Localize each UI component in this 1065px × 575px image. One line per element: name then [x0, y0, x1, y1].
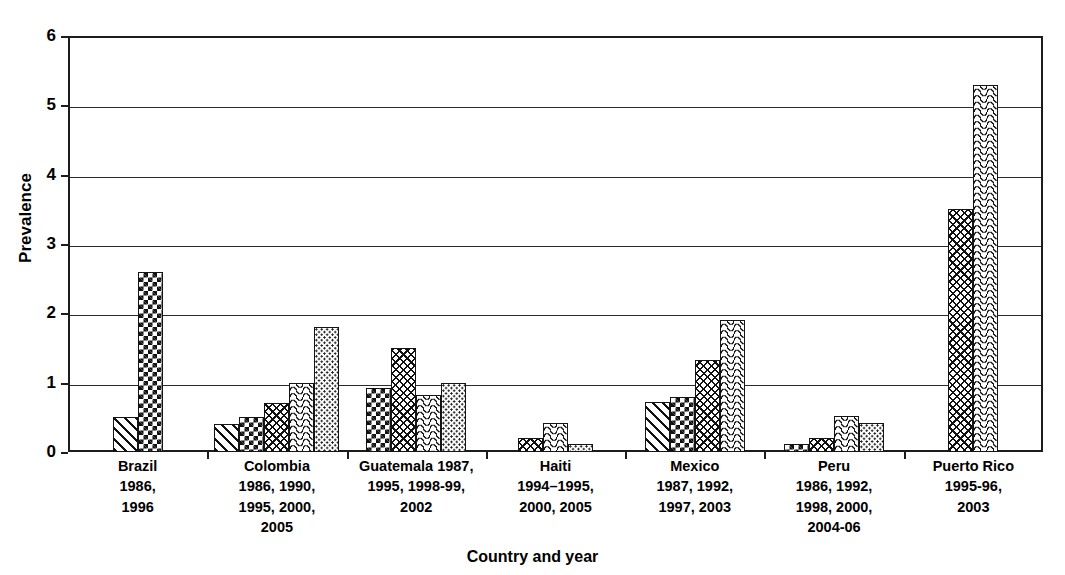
bar: [568, 444, 593, 452]
bar: [695, 360, 720, 452]
bar: [441, 383, 466, 452]
bar: [314, 327, 339, 452]
bar: [518, 438, 543, 452]
x-group-label: Colombia 1986, 1990, 1995, 2000, 2005: [201, 456, 352, 537]
bar: [113, 417, 138, 452]
y-tick-label: 1: [16, 374, 56, 391]
bar: [645, 402, 670, 452]
y-tick-mark: [61, 36, 68, 38]
y-tick-label: 2: [16, 304, 56, 321]
bar: [239, 417, 264, 452]
bar: [214, 424, 239, 452]
x-axis-group-labels: Brazil 1986, 1996Colombia 1986, 1990, 19…: [0, 456, 1065, 548]
x-group-label: Brazil 1986, 1996: [62, 456, 213, 517]
x-axis-title: Country and year: [0, 548, 1065, 566]
y-tick-label: 3: [16, 235, 56, 252]
bar: [809, 438, 834, 452]
bar: [138, 272, 163, 452]
bar: [834, 416, 859, 452]
y-tick-mark: [61, 244, 68, 246]
y-tick-label: 5: [16, 96, 56, 113]
bar: [289, 383, 314, 452]
bar: [543, 423, 568, 452]
y-axis-title: Prevalence: [16, 118, 36, 318]
y-tick-mark: [61, 105, 68, 107]
bar: [784, 444, 809, 452]
prevalence-bar-chart: Prevalence 0123456 Brazil 1986, 1996Colo…: [0, 0, 1065, 575]
y-tick-mark: [61, 175, 68, 177]
x-group-label: Haiti 1994–1995, 2000, 2005: [480, 456, 631, 517]
bar: [366, 388, 391, 452]
x-group-label: Peru 1986, 1992, 1998, 2000, 2004-06: [758, 456, 909, 537]
bar: [264, 403, 289, 452]
y-tick-mark: [61, 313, 68, 315]
y-tick-label: 6: [16, 27, 56, 44]
bar: [720, 320, 745, 452]
x-group-label: Mexico 1987, 1992, 1997, 2003: [619, 456, 770, 517]
bar: [973, 85, 998, 452]
bar: [948, 209, 973, 452]
y-tick-mark: [61, 452, 68, 454]
y-tick-mark: [61, 383, 68, 385]
x-group-label: Puerto Rico 1995-96, 2003: [898, 456, 1049, 517]
bars-layer: [68, 36, 1043, 452]
bar: [859, 423, 884, 452]
bar: [670, 397, 695, 452]
y-tick-label: 4: [16, 166, 56, 183]
x-group-label: Guatemala 1987, 1995, 1998-99, 2002: [341, 456, 492, 517]
bar: [416, 395, 441, 452]
bar: [391, 348, 416, 452]
